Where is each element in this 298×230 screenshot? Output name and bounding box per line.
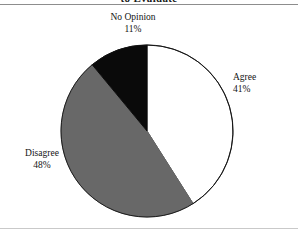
slice-label-agree-name: Agree bbox=[233, 72, 291, 84]
pie-graphic bbox=[61, 45, 233, 217]
slice-label-disagree-value: 48% bbox=[6, 160, 78, 172]
slice-label-disagree: Disagree 48% bbox=[6, 148, 78, 171]
pie-chart-figure: to Evaluate No Opinion 11% Agree 41% Dis… bbox=[0, 0, 298, 230]
header-divider bbox=[0, 4, 298, 5]
slice-label-no-opinion-value: 11% bbox=[78, 24, 188, 36]
slice-label-no-opinion-name: No Opinion bbox=[78, 12, 188, 24]
slice-label-disagree-name: Disagree bbox=[6, 148, 78, 160]
slice-label-no-opinion: No Opinion 11% bbox=[78, 12, 188, 35]
slice-label-agree: Agree 41% bbox=[233, 72, 291, 95]
footer-divider bbox=[0, 228, 298, 229]
slice-label-agree-value: 41% bbox=[233, 84, 291, 96]
